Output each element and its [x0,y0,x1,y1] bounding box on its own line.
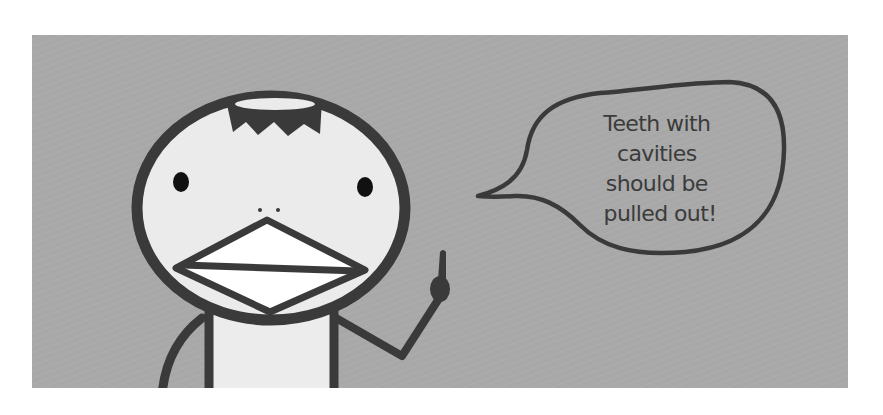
speech-line-2: cavities [617,141,697,166]
right-eye-icon [357,177,373,197]
hair-bald-spot [235,98,315,110]
comic-panel-svg: Teeth with cavities should be pulled out… [0,0,883,415]
speech-line-4: pulled out! [604,201,717,226]
comic-panel-stage: Teeth with cavities should be pulled out… [0,0,883,415]
speech-line-3: should be [606,171,708,196]
left-eye-icon [173,172,189,192]
right-nostril [276,208,280,212]
speech-line-1: Teeth with [602,111,710,136]
left-nostril [258,208,262,212]
